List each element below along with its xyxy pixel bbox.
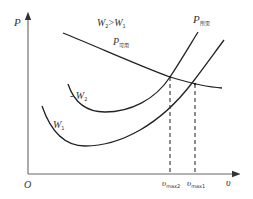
available-power-curve	[63, 33, 222, 88]
w2-curve-label: - W2	[70, 90, 87, 102]
vmax2-label: υmax2	[162, 178, 180, 189]
intersection-point-vmax2	[169, 76, 171, 78]
power-diagram: P O υ W2>W1 P可用 P所需 - W2 W1 υmax2 υmax1	[0, 0, 253, 199]
required-power-label: P所需	[192, 13, 210, 27]
origin-label: O	[24, 179, 31, 190]
available-power-label: P可用	[112, 36, 129, 49]
vmax1-label: υmax1	[187, 178, 205, 189]
condition-label: W2>W1	[97, 17, 126, 29]
x-axis-label: υ	[226, 177, 231, 188]
intersection-point-vmax1	[194, 83, 196, 85]
y-axis-label: P	[13, 16, 21, 28]
required-power-curve-w2	[68, 32, 198, 112]
w1-curve-label: W1	[53, 119, 65, 131]
